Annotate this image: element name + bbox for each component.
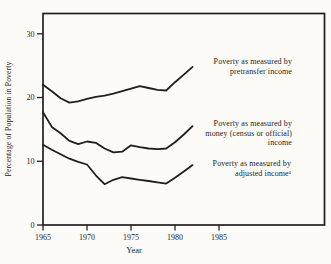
y-axis-tick-label: 30 <box>27 30 35 39</box>
y-axis-tick-label: 10 <box>27 157 35 166</box>
poverty-rate-figure: 010203019651970197519801985YearPercentag… <box>0 0 331 264</box>
y-axis-tick-label: 0 <box>31 221 35 230</box>
series-line-pretransfer-income <box>43 67 193 103</box>
x-axis-tick-label: 1980 <box>167 233 183 242</box>
series-line-adjusted-income <box>43 145 193 185</box>
series-line-money-income <box>43 112 193 152</box>
annotation-pretransfer-income: Poverty as measured by pretransfer incom… <box>174 57 292 76</box>
x-axis-tick-label: 1965 <box>35 233 51 242</box>
x-axis-tick-label: 1985 <box>211 233 227 242</box>
annotation-adjusted-income: Poverty as measured by adjusted incomeᵃ <box>173 159 291 178</box>
x-axis-tick-label: 1975 <box>123 233 139 242</box>
y-axis-title: Percentage of Population in Poverty <box>4 61 13 176</box>
y-axis-tick-label: 20 <box>27 93 35 102</box>
annotation-money-income: Poverty as measured by money (census or … <box>174 119 292 148</box>
x-axis-title: Year <box>126 245 142 255</box>
x-axis-tick-label: 1970 <box>79 233 95 242</box>
